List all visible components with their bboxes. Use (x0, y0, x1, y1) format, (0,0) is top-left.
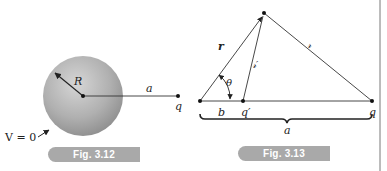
charge-q-dot (176, 94, 180, 98)
total-distance-a-label: a (284, 124, 291, 137)
apex-point-dot (262, 11, 266, 15)
image-charge-label: q′ (241, 106, 251, 119)
image-charge-dot (241, 99, 245, 103)
figure-caption-3-12: Fig. 3.12 (48, 147, 140, 162)
position-vector-label: r (218, 40, 225, 53)
separation-to-q-label: 𝓇 (307, 39, 312, 50)
origin-dot (198, 99, 202, 103)
image-distance-b-label: b (218, 106, 225, 119)
figure-page: R a q V = 0 (0, 0, 387, 171)
charge-q-label: q (369, 106, 376, 119)
fig-3-13-diagram: r 𝓇′ 𝓇 θ b q′ q a (198, 11, 376, 137)
potential-label: V = 0 (4, 131, 36, 144)
separation-to-q-line (264, 13, 372, 101)
separation-to-image-label: 𝓇′ (252, 59, 259, 70)
distance-a-label: a (146, 82, 153, 95)
angle-theta-label: θ (226, 77, 232, 88)
distance-brace-icon (200, 114, 372, 123)
radius-label: R (73, 75, 82, 88)
figure-caption-3-13: Fig. 3.13 (238, 146, 330, 161)
sphere-center-dot (81, 94, 85, 98)
fig-3-12-diagram: R a q V = 0 (4, 56, 182, 144)
charge-q-label: q (175, 100, 182, 113)
potential-arrow-icon (38, 130, 49, 137)
charge-q-dot (370, 99, 374, 103)
